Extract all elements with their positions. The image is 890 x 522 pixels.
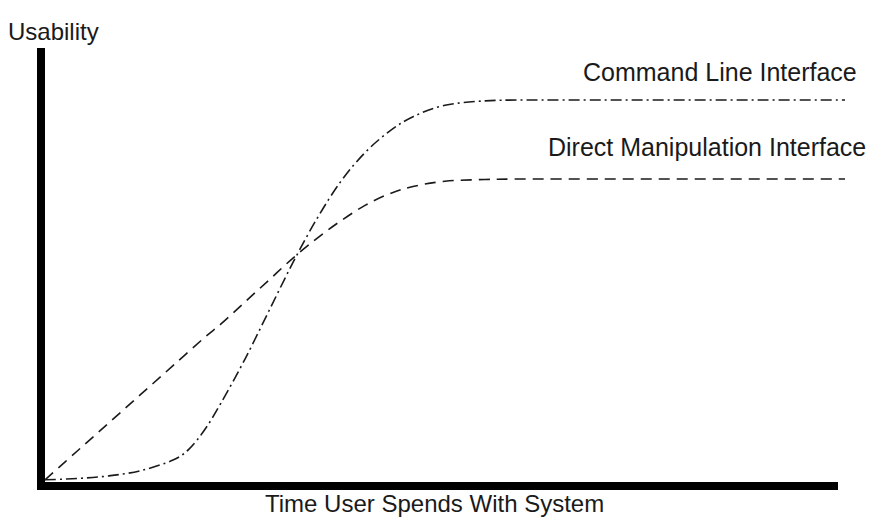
plot-area <box>0 0 890 522</box>
chart-figure: Usability Time User Spends With System C… <box>0 0 890 522</box>
x-axis-line <box>37 482 838 490</box>
series-curve-direct-manipulation-interface <box>45 179 845 480</box>
y-axis-line <box>37 48 45 490</box>
series-group <box>45 100 845 480</box>
series-curve-command-line-interface <box>45 100 845 480</box>
axes-group <box>37 48 838 490</box>
